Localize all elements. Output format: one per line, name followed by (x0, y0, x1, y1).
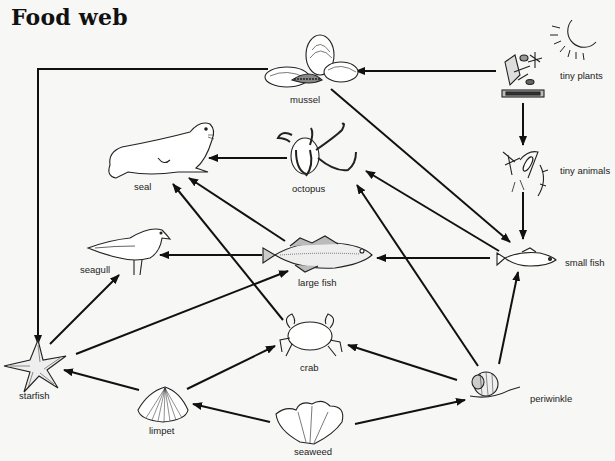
arrow-seaweed-to-limpet (193, 404, 270, 422)
label-crab: crab (300, 362, 318, 373)
arrow-mussel-to-small-fish (331, 89, 510, 242)
food-web-diagram (0, 0, 615, 461)
arrow-starfish-to-seagull (50, 275, 119, 344)
label-tiny-plants: tiny plants (560, 70, 603, 81)
arrow-limpet-to-crab (187, 346, 275, 389)
octopus-icon (278, 124, 356, 176)
large-fish-icon (263, 236, 372, 272)
label-seal: seal (134, 181, 151, 192)
arrow-seaweed-to-periwinkle (355, 400, 465, 424)
label-seagull: seagull (80, 264, 110, 275)
mussel-icon (265, 35, 358, 87)
label-large-fish: large fish (298, 277, 337, 288)
label-periwinkle: periwinkle (530, 393, 572, 404)
label-starfish: starfish (19, 390, 50, 401)
arrow-small-fish-to-octopus (366, 171, 499, 251)
label-octopus: octopus (292, 183, 325, 194)
label-mussel: mussel (290, 94, 320, 105)
seal-icon (109, 123, 214, 178)
arrow-periwinkle-to-crab (348, 345, 457, 380)
arrow-periwinkle-to-small-fish (499, 272, 518, 364)
starfish-icon (4, 340, 66, 392)
plankton-icon (503, 152, 548, 196)
label-small-fish: small fish (565, 257, 605, 268)
plants-sun-icon (502, 20, 596, 97)
seaweed-icon (276, 401, 343, 444)
arrow-limpet-to-starfish (64, 370, 139, 390)
label-seaweed: seaweed (294, 446, 332, 457)
crab-icon (280, 314, 342, 356)
arrow-starfish-to-large-fish (76, 271, 288, 354)
label-tiny-animals: tiny animals (560, 165, 610, 176)
periwinkle-icon (470, 372, 520, 397)
arrow-large-fish-to-seal (189, 178, 285, 241)
arrow-periwinkle-to-octopus (357, 185, 478, 366)
limpet-icon (138, 387, 188, 422)
small-fish-icon (497, 248, 556, 266)
label-limpet: limpet (149, 425, 174, 436)
